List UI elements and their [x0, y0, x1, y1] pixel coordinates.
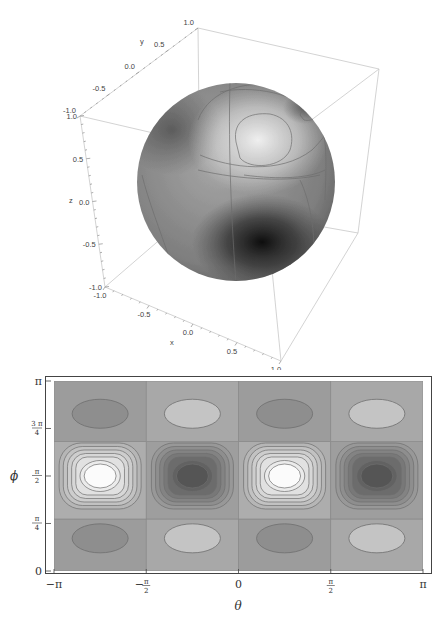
x-tick-label: −π	[46, 578, 62, 591]
contour-ring-dark	[353, 457, 402, 495]
contour-blob-light	[349, 399, 405, 428]
x-tick-label-sign: −	[135, 578, 144, 591]
x-tick-label: 0.5	[227, 347, 237, 356]
y-axis-tick	[96, 103, 98, 104]
z-axis-label: z	[69, 196, 73, 205]
y-tick-label: -0.5	[93, 84, 106, 93]
y-tick-labels: 0π4π23 π4π	[31, 375, 43, 578]
contour-ring-dark	[348, 453, 405, 498]
y-axis-tick	[155, 59, 157, 60]
z-tick-label: 0.5	[73, 155, 83, 164]
z-axis-tick	[86, 158, 90, 159]
x-tick-label-denominator: 2	[329, 587, 333, 595]
x-tick-label-numerator: π	[144, 578, 149, 586]
x-axis-tick	[271, 357, 272, 359]
contour-ring-light	[67, 450, 132, 502]
contour-ring-light	[252, 450, 317, 502]
phi-axis-label: ϕ	[10, 469, 18, 483]
contour-ring-dark	[336, 443, 418, 509]
x-axis-tick	[122, 294, 123, 296]
contour-ring-light	[63, 446, 137, 505]
contour-ring-dark	[160, 450, 225, 502]
contour-cell	[146, 442, 238, 519]
y-axis-label: y	[140, 37, 144, 46]
y-axis-tick	[126, 81, 128, 82]
x-axis-tick	[254, 350, 255, 352]
sphere-dark-lobe	[192, 194, 332, 290]
x-axis-tick	[262, 354, 263, 356]
contour-ring-light	[84, 464, 116, 488]
x-tick-label: 0	[235, 578, 242, 591]
y-axis-tick	[173, 46, 175, 47]
x-tick-label: -0.5	[138, 310, 151, 319]
x-axis-tick	[279, 361, 281, 364]
y-axis-tick	[84, 112, 86, 113]
y-tick-label-numerator: π	[35, 468, 40, 476]
contour-ring-dark	[156, 446, 230, 505]
y-tick-label-numerator: 3 π	[31, 420, 43, 428]
z-tick-label: 1.0	[67, 112, 77, 121]
contour-ring-light	[260, 457, 309, 495]
y-tick-label-denominator: 2	[35, 477, 39, 485]
x-tick-label: π	[419, 578, 426, 591]
x-tick-label: 1.0	[271, 365, 281, 370]
contour-ring-light	[72, 453, 129, 498]
y-axis-tick	[77, 116, 80, 118]
y-tick-label-numerator: π	[35, 515, 40, 523]
y-axis-tick	[132, 76, 134, 77]
y-axis-tick	[149, 63, 151, 64]
y-tick-label: π	[35, 375, 42, 388]
contour-ring-dark	[151, 443, 233, 509]
y-axis-tick	[120, 85, 122, 86]
y-axis-tick	[114, 90, 116, 91]
y-axis-tick	[195, 28, 198, 30]
contour-ring-dark	[344, 450, 409, 502]
x-axis-tick	[166, 313, 167, 315]
contour-ring-light	[264, 460, 304, 491]
x-axis-tick	[201, 328, 202, 330]
x-axis-tick	[183, 320, 184, 322]
x-tick-label-numerator: π	[328, 578, 333, 586]
x-axis-tick	[139, 302, 140, 304]
contour-ring-dark	[361, 464, 393, 488]
contour-cell	[239, 519, 331, 571]
contour-ring-dark	[164, 453, 221, 498]
z-tick-label: 0.0	[79, 198, 89, 207]
contour-cell	[146, 519, 238, 571]
contour-blob-light	[349, 524, 405, 553]
x-axis-tick	[235, 343, 237, 346]
contour-ring-light	[248, 446, 322, 505]
contour-ring-dark	[168, 457, 217, 495]
contour-cell	[331, 442, 423, 519]
z-axis-tick	[93, 201, 97, 202]
z-axis-tick	[99, 244, 103, 245]
contour-blob-dark	[72, 524, 128, 553]
contour-cell	[54, 381, 146, 442]
x-axis-label: x	[170, 338, 174, 347]
contour-ring-light	[244, 443, 326, 509]
contour-ring-dark	[340, 446, 414, 505]
box-edge	[198, 28, 379, 69]
x-tick-label: 0.0	[183, 328, 193, 337]
y-tick-label: 0	[35, 565, 42, 578]
y-tick-label-denominator: 4	[35, 429, 40, 437]
contour-cell	[54, 442, 146, 519]
y-axis-tick	[143, 68, 145, 69]
y-axis-tick	[191, 32, 193, 33]
y-axis-tick	[107, 94, 110, 96]
x-tick-label-denominator: 2	[144, 587, 148, 595]
x-axis-tick	[218, 335, 219, 337]
x-tick-label: -1.0	[94, 291, 107, 300]
x-axis-tick	[130, 298, 131, 300]
sphere-dark-lobe-top	[283, 92, 327, 124]
contour-ring-light	[76, 457, 125, 495]
contour-ring-dark	[172, 460, 212, 491]
y-axis-tick	[166, 50, 169, 52]
contour-cell	[331, 381, 423, 442]
x-axis-tick	[245, 346, 246, 348]
x-tick-labels: −π−π20π2π	[46, 578, 427, 595]
y-tick-label: 0.5	[154, 40, 164, 49]
contour-blob-dark	[72, 399, 128, 428]
y-axis-tick	[136, 72, 139, 74]
x-axis-tick	[147, 306, 149, 309]
